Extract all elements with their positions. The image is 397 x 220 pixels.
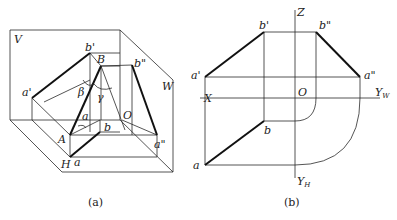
label-a: a [74, 156, 81, 169]
label-beta: β [77, 86, 84, 99]
label-yh: YH [297, 175, 311, 189]
label-alpha: a [82, 110, 89, 123]
figure-a: V W H b' B b" a' A a b O a" β γ a (a) [10, 30, 175, 209]
label-w: W [162, 80, 175, 93]
label-b-prime: b' [259, 19, 269, 32]
label-b: b [104, 121, 111, 134]
label-O: O [123, 109, 132, 122]
gamma-arc [94, 84, 112, 89]
top-projection-a-b [70, 132, 100, 157]
label-z: Z [296, 6, 305, 19]
label-a-dprime: a" [154, 138, 166, 151]
front-view-ab [205, 32, 264, 77]
h-plane [10, 120, 173, 172]
label-gamma: γ [97, 91, 104, 104]
label-a-prime: a' [22, 86, 32, 99]
label-x: X [203, 92, 213, 105]
label-yw: YW [375, 86, 390, 100]
figure-b: Z X O YW YH b' b" a' a" b a (b) [191, 6, 390, 209]
side-projection-a-b [132, 65, 157, 135]
label-a: a [193, 159, 200, 172]
v-plane [10, 30, 120, 120]
label-b-dprime: b" [319, 19, 331, 32]
label-h: H [60, 158, 71, 171]
label-B: B [96, 53, 105, 66]
caption-b: (b) [284, 196, 300, 209]
label-b-prime: b' [85, 41, 95, 54]
caption-a: (a) [88, 196, 103, 209]
label-v: V [14, 33, 23, 46]
top-view-ab [205, 121, 264, 165]
label-o: O [298, 86, 307, 99]
label-a-dprime: a" [364, 69, 376, 82]
label-a-prime: a' [191, 69, 201, 82]
label-b-dprime: b" [134, 57, 146, 70]
label-b: b [264, 124, 271, 137]
label-A: A [57, 133, 66, 146]
projection-diagrams: V W H b' B b" a' A a b O a" β γ a (a) Z … [0, 0, 397, 220]
side-view-ab [316, 32, 360, 77]
